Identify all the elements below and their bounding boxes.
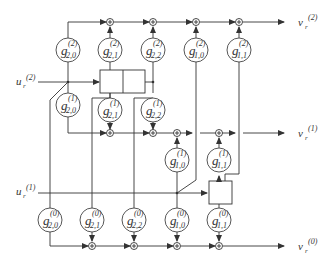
svg-text:(2): (2): [153, 39, 163, 48]
tap-g2-21: g (2) 2,1: [98, 38, 122, 62]
svg-text:r: r: [305, 23, 308, 31]
svg-text:r: r: [305, 134, 308, 142]
adder-top-3: [193, 19, 200, 26]
svg-text:1,1: 1,1: [217, 161, 227, 170]
tap-g2-10: g (2) 1,0: [184, 38, 208, 62]
output-line-v2: [68, 22, 284, 38]
svg-text:2,0: 2,0: [66, 51, 76, 60]
svg-text:2,2: 2,2: [151, 51, 161, 60]
svg-text:(1): (1): [219, 149, 229, 158]
adder-mid-3: [174, 130, 181, 137]
tap-g2-22: g (2) 2,2: [141, 38, 165, 62]
tap-g1-20: g (1) 2,0: [56, 93, 80, 117]
adder-bot-4: [216, 243, 223, 250]
tap-g1-21: g (1) 2,1: [98, 98, 122, 122]
adder-mid-1: [107, 130, 114, 137]
svg-text:(0): (0): [134, 209, 144, 218]
input-u1-label: u r (1): [16, 183, 36, 200]
svg-text:(1): (1): [308, 124, 318, 133]
svg-text:1,1: 1,1: [237, 51, 247, 60]
svg-text:u: u: [16, 185, 22, 197]
svg-text:r: r: [23, 82, 26, 90]
output-v0-label: v r (0): [298, 237, 318, 255]
svg-text:u: u: [16, 75, 22, 87]
svg-text:(2): (2): [68, 39, 78, 48]
tap-g1-10: g (1) 1,0: [165, 148, 189, 172]
svg-text:2,1: 2,1: [90, 221, 100, 230]
svg-text:(1): (1): [68, 94, 78, 103]
adder-bot-3: [174, 243, 181, 250]
svg-text:(0): (0): [308, 237, 318, 246]
svg-text:(1): (1): [153, 99, 163, 108]
input-u2-label: u r (2): [16, 73, 36, 90]
tap-g0-11: g (0) 1,1: [207, 208, 231, 232]
svg-text:(1): (1): [26, 183, 36, 192]
adder-top-4: [236, 19, 243, 26]
svg-text:2,1: 2,1: [108, 51, 118, 60]
tap-g0-21: g (0) 2,1: [80, 208, 104, 232]
svg-text:(1): (1): [110, 99, 120, 108]
svg-text:(2): (2): [26, 73, 36, 82]
svg-text:(0): (0): [50, 209, 60, 218]
tap-g2-11: g (2) 1,1: [227, 38, 251, 62]
tap-g1-11: g (1) 1,1: [207, 148, 231, 172]
svg-text:(2): (2): [196, 39, 206, 48]
svg-text:(1): (1): [177, 149, 187, 158]
output-v2-label: v r (2): [298, 13, 318, 31]
tap-g0-22: g (0) 2,2: [122, 208, 146, 232]
adder-mid-4: [216, 130, 223, 137]
shift-register-u2: [100, 70, 145, 93]
adder-top-1: [107, 19, 114, 26]
svg-text:(2): (2): [239, 39, 249, 48]
svg-text:2,2: 2,2: [132, 221, 142, 230]
svg-text:v: v: [298, 127, 303, 139]
tap-g2-20: g (2) 2,0: [56, 38, 80, 62]
svg-text:(2): (2): [110, 39, 120, 48]
tap-g1-22: g (1) 2,2: [141, 98, 165, 122]
svg-text:(2): (2): [308, 13, 318, 22]
adder-bot-1: [89, 243, 96, 250]
svg-text:r: r: [23, 192, 26, 200]
svg-text:2,1: 2,1: [108, 111, 118, 120]
svg-text:(0): (0): [219, 209, 229, 218]
svg-text:(0): (0): [177, 209, 187, 218]
adder-top-2: [150, 19, 157, 26]
svg-text:2,0: 2,0: [48, 221, 58, 230]
output-line-v0: [50, 232, 284, 246]
svg-text:2,2: 2,2: [151, 111, 161, 120]
tap-g0-10: g (0) 1,0: [165, 208, 189, 232]
svg-text:v: v: [298, 16, 303, 28]
tap-g0-20: g (0) 2,0: [38, 208, 62, 232]
svg-text:1,0: 1,0: [175, 221, 185, 230]
svg-text:r: r: [305, 247, 308, 255]
svg-text:v: v: [298, 240, 303, 252]
svg-text:1,0: 1,0: [175, 161, 185, 170]
svg-text:1,1: 1,1: [217, 221, 227, 230]
svg-text:(0): (0): [92, 209, 102, 218]
svg-text:1,0: 1,0: [194, 51, 204, 60]
adder-bot-2: [131, 243, 138, 250]
adder-mid-2: [150, 130, 157, 137]
output-v1-label: v r (1): [298, 124, 318, 142]
shift-register-u1: [209, 181, 232, 204]
convolutional-encoder-diagram: g (2) 2,0 g (2) 2,1 g (2) 2,2 g (2) 1,0 …: [0, 0, 330, 264]
svg-text:2,0: 2,0: [66, 106, 76, 115]
